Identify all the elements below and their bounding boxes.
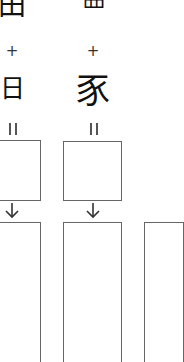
output-box-col2 [63,222,122,362]
equals-marker-col2 [90,123,98,135]
component-top-col2: 罒 [78,0,110,22]
plus-operator-col1: + [2,44,22,59]
output-box-col1 [0,222,41,362]
arrow-down-icon-col2 [86,203,100,219]
component-top-col1: 田 [0,0,30,20]
result-box-col1 [0,140,41,201]
equals-marker-col1 [9,123,17,135]
output-box-col3 [144,222,184,362]
arrow-down-icon-col1 [5,203,19,219]
component-bottom-col1: 日 [0,76,26,101]
plus-operator-col2: + [83,44,103,59]
component-bottom-col2: 豕 [72,74,114,108]
result-box-col2 [63,141,122,201]
